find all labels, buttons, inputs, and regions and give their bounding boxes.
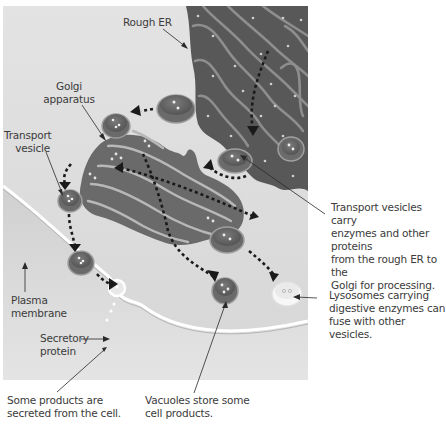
vacuole [212, 278, 238, 304]
caption-secreted: Some products are secreted from the cell… [7, 394, 121, 420]
cell-diagram-svg [3, 6, 308, 380]
caption-line: Transport vesicles carry [331, 201, 446, 227]
er-vesicle-1 [218, 149, 252, 173]
label-secretory-line2: protein [40, 345, 89, 358]
caption-line: cell products. [145, 407, 250, 420]
label-secretory-protein: Secretory protein [40, 332, 89, 358]
label-golgi-line2: apparatus [40, 93, 98, 106]
er-vesicle-2 [278, 137, 304, 161]
caption-vacuoles: Vacuoles store some cell products. [145, 394, 250, 420]
secretory-vesicle-travel [68, 251, 94, 275]
transport-vesicle-left [58, 190, 82, 212]
label-plasma-line2: membrane [11, 307, 67, 320]
caption-transport-vesicles: Transport vesicles carry enzymes and oth… [331, 201, 446, 292]
label-plasma-membrane: Plasma membrane [11, 294, 67, 320]
label-secretory-line1: Secretory [40, 332, 89, 345]
label-transport-vesicle: Transport vesicle [4, 129, 50, 155]
label-transport-line1: Transport [4, 129, 50, 142]
caption-line: secreted from the cell. [7, 407, 121, 420]
caption-line: fuse with other vesicles. [329, 315, 446, 341]
label-golgi-line1: Golgi [40, 80, 98, 93]
caption-line: Some products are [7, 394, 121, 407]
label-golgi-apparatus: Golgi apparatus [40, 80, 98, 106]
caption-line: Lysosomes carrying [329, 289, 446, 302]
lysosome [272, 282, 302, 306]
cell-illustration [3, 6, 308, 380]
caption-line: from the rough ER to the [331, 253, 446, 279]
caption-lysosomes: Lysosomes carrying digestive enzymes can… [329, 289, 446, 341]
transport-vesicle-top [157, 95, 195, 123]
caption-line: Vacuoles store some [145, 394, 250, 407]
label-transport-line2: vesicle [4, 142, 50, 155]
label-plasma-line1: Plasma [11, 294, 67, 307]
caption-line: digestive enzymes can [329, 302, 446, 315]
caption-line: enzymes and other proteins [331, 227, 446, 253]
label-rough-er: Rough ER [123, 16, 172, 29]
